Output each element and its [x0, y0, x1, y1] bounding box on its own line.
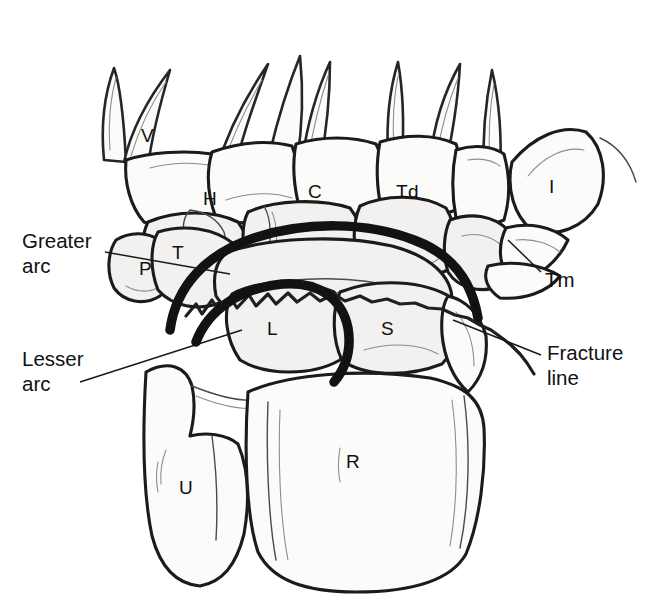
- callout-greater-arc: Greater arc: [22, 228, 92, 278]
- bone-label-trapezoid: Td: [396, 182, 419, 201]
- bone-label-triquetrum: T: [172, 243, 184, 262]
- carpal-illustration: [0, 0, 648, 609]
- carpal-arc-figure: V H C Td I T P L S U R Greater arc Lesse…: [0, 0, 648, 609]
- callout-fracture-line: Fracture line: [547, 340, 623, 390]
- bone-label-scaphoid: S: [381, 319, 394, 338]
- bone-label-ulna: U: [179, 478, 193, 497]
- bone-label-metacarpal-one: I: [549, 177, 555, 196]
- bone-label-capitate: C: [308, 182, 322, 201]
- bone-label-pisiform: P: [139, 259, 152, 278]
- callout-lesser-arc: Lesser arc: [22, 346, 84, 396]
- callout-trapezium: Tm: [545, 267, 575, 292]
- bone-label-hamate: H: [203, 189, 217, 208]
- bone-label-radius: R: [346, 452, 360, 471]
- forearm-bones: [144, 366, 484, 592]
- bone-label-lunate: L: [267, 319, 278, 338]
- bone-label-metacarpal-five: V: [141, 126, 154, 145]
